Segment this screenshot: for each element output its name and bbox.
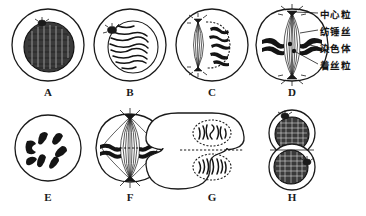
annotation-spindle-fiber: 纺锤丝 <box>320 24 351 38</box>
nucleus-A <box>24 22 74 72</box>
panel-D: D <box>256 4 328 98</box>
mitosis-diagram: A B <box>0 0 366 216</box>
cell-membrane-B <box>94 9 166 81</box>
figure-canvas: A B <box>0 0 366 216</box>
annotation-centromere: 着丝粒 <box>320 58 351 72</box>
panel-C: C <box>176 9 248 98</box>
panel-label-A: A <box>44 86 52 98</box>
panel-E: E <box>15 115 81 203</box>
cell-membrane-D <box>256 9 328 81</box>
panel-label-D: D <box>288 86 296 98</box>
panel-H: H <box>269 110 315 203</box>
panel-label-G: G <box>208 191 217 203</box>
annotation-chromosome: 染色体 <box>320 41 351 55</box>
panel-label-B: B <box>126 86 134 98</box>
panel-A: A <box>12 9 84 98</box>
panel-B: B <box>94 9 166 98</box>
panel-label-C: C <box>208 86 216 98</box>
cell-membrane-E <box>15 115 81 181</box>
annotation-centriole: 中心粒 <box>320 7 351 21</box>
panel-label-E: E <box>44 191 51 203</box>
panel-label-F: F <box>127 191 134 203</box>
panel-label-H: H <box>288 191 297 203</box>
cell-membrane-G <box>146 113 244 189</box>
panel-G: G <box>146 113 244 203</box>
